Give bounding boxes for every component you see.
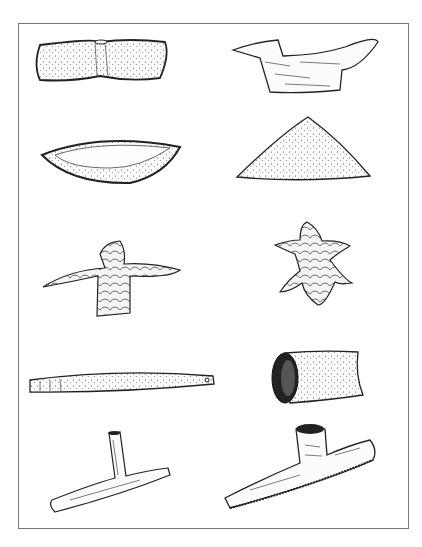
bar-bannerstone-icon	[37, 40, 167, 81]
t-pipe-icon	[51, 431, 170, 512]
cone-stone-icon	[237, 117, 370, 180]
tapered-bar-icon	[30, 373, 214, 392]
boat-stone-icon	[42, 141, 180, 183]
platform-pipe-icon	[225, 424, 375, 508]
tube-pipe-icon	[272, 351, 363, 403]
bird-effigy-icon	[43, 241, 180, 316]
human-effigy-icon	[275, 222, 352, 305]
bird-stone-icon	[233, 39, 378, 92]
artifact-drawings	[0, 0, 422, 547]
